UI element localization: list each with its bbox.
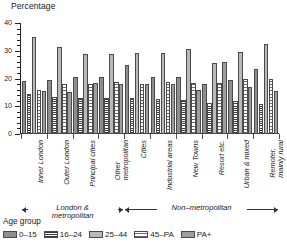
legend-item[interactable]: PA+	[181, 230, 212, 239]
legend-label: 0–15	[19, 230, 37, 239]
bar	[42, 91, 47, 134]
y-tick-major	[15, 106, 20, 107]
bar	[104, 98, 109, 134]
bar	[161, 53, 166, 134]
legend-label: 45–PA	[150, 230, 173, 239]
legend-swatch-icon	[134, 231, 148, 238]
y-tick-minor	[17, 62, 20, 63]
category-tick	[73, 134, 74, 139]
bar	[130, 98, 135, 134]
bar	[181, 100, 186, 134]
bar	[259, 104, 264, 134]
legend-label: PA+	[197, 230, 212, 239]
bar	[62, 84, 67, 134]
category-tick	[124, 134, 125, 139]
bar	[78, 98, 83, 134]
bar	[27, 94, 32, 134]
bar	[207, 103, 212, 134]
y-tick-minor	[17, 34, 20, 35]
bar	[22, 81, 27, 134]
category-tick	[150, 134, 151, 139]
legend-item[interactable]: 16–24	[44, 230, 82, 239]
bar	[114, 82, 119, 134]
bar	[196, 90, 201, 134]
legend-item[interactable]: 25–44	[89, 230, 127, 239]
y-tick-minor	[17, 29, 20, 30]
y-tick-major	[15, 79, 20, 80]
y-tick-label: 40	[0, 19, 12, 26]
bar	[93, 83, 98, 134]
bar	[52, 97, 57, 134]
y-tick-minor	[17, 128, 20, 129]
y-tick-major	[15, 23, 20, 24]
legend-swatch-icon	[44, 231, 58, 238]
bracket-arrow-left	[125, 207, 129, 213]
bar	[166, 82, 171, 134]
bracket-arrow-left	[22, 207, 26, 213]
category-label: Urban & mixed	[243, 140, 251, 188]
bar	[32, 37, 37, 134]
bar	[176, 77, 181, 134]
y-tick-minor	[17, 95, 20, 96]
bar	[217, 83, 222, 134]
bar	[228, 80, 233, 134]
category-tick	[47, 134, 48, 139]
y-tick-minor	[17, 73, 20, 74]
y-tick-minor	[17, 112, 20, 113]
bar	[171, 84, 176, 134]
bar	[57, 47, 62, 134]
bar	[37, 90, 42, 134]
bar	[67, 92, 72, 134]
category-tick	[279, 134, 280, 139]
y-tick-minor	[17, 90, 20, 91]
y-tick-minor	[17, 84, 20, 85]
category-tick	[227, 134, 228, 139]
bar-group	[73, 23, 99, 134]
legend-label: 16–24	[60, 230, 82, 239]
bar	[47, 80, 52, 134]
bar	[243, 79, 248, 134]
bar	[186, 49, 191, 134]
bar-group	[21, 23, 47, 134]
bar	[83, 54, 88, 134]
y-tick-major	[15, 134, 20, 135]
bar	[248, 87, 253, 134]
group-bracket-label: London &metropolitan	[28, 204, 118, 221]
bar	[274, 91, 279, 134]
bar-group	[176, 23, 202, 134]
y-tick-label: 30	[0, 47, 12, 54]
bar	[125, 65, 130, 134]
bar	[254, 69, 259, 134]
bar	[156, 99, 161, 134]
bar-group	[150, 23, 176, 134]
chart-axis-title: Percentage	[11, 1, 55, 11]
plot-area	[21, 23, 279, 134]
bar	[140, 84, 145, 134]
legend-item[interactable]: 45–PA	[134, 230, 173, 239]
category-label: Cities	[140, 140, 148, 158]
category-label: Inner London	[37, 140, 45, 183]
category-label: Principal cities	[89, 140, 97, 187]
legend-swatch-icon	[181, 231, 195, 238]
category-label: Outer London	[63, 140, 71, 185]
bar	[233, 101, 238, 134]
bar	[73, 77, 78, 134]
percentage-bar-chart: Percentage 010203040 Inner LondonOuter L…	[0, 0, 287, 245]
bar	[145, 84, 150, 134]
category-label: Othermetropolitan	[114, 140, 129, 180]
legend-item[interactable]: 0–15	[3, 230, 37, 239]
bar	[88, 84, 93, 135]
category-tick	[21, 134, 22, 139]
bar	[99, 77, 104, 134]
category-tick	[253, 134, 254, 139]
y-tick-major	[15, 51, 20, 52]
bar-group	[227, 23, 253, 134]
bar	[202, 84, 207, 134]
y-tick-minor	[17, 45, 20, 46]
category-label: New Towns	[192, 140, 200, 177]
y-tick-label: 0	[0, 130, 12, 137]
category-label: Remoter,mainly rural	[269, 140, 284, 178]
bar	[191, 83, 196, 134]
bar	[109, 54, 114, 134]
legend-label: 25–44	[105, 230, 127, 239]
